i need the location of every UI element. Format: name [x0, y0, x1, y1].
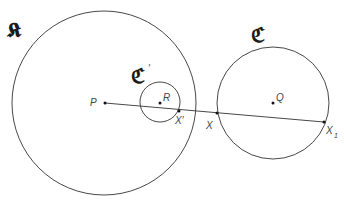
label-P: P — [90, 97, 97, 108]
point-X-prime — [178, 110, 181, 113]
point-Q — [272, 102, 275, 105]
label-C-prime: ℭ — [131, 64, 145, 88]
label-K: 𝕶 — [6, 18, 22, 42]
point-R — [159, 102, 162, 105]
label-Q: Q — [276, 92, 284, 103]
label-C-prime-mark: ′ — [148, 63, 151, 74]
point-X — [216, 112, 219, 115]
label-X: X — [205, 120, 213, 131]
label-C: ℭ — [251, 23, 265, 47]
point-P — [104, 102, 107, 105]
diagram-canvas: 𝕶 ℭ ′ ℭ P R Q X′ X X 1 — [0, 0, 344, 207]
label-R: R — [163, 92, 170, 103]
label-X1: X — [325, 125, 333, 136]
label-X-prime: X′ — [174, 115, 185, 126]
label-X1-subscript: 1 — [334, 132, 338, 139]
line-P-X1 — [105, 103, 324, 122]
point-X1 — [323, 121, 326, 124]
